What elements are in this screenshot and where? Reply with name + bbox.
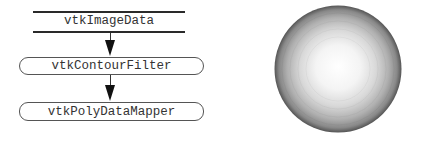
contour-filter-label: vtkContourFilter xyxy=(51,59,171,73)
poly-data-mapper-node: vtkPolyDataMapper xyxy=(19,102,204,121)
datastore-top-line xyxy=(33,11,185,13)
contour-filter-node: vtkContourFilter xyxy=(19,57,204,75)
arrow-head xyxy=(105,85,115,101)
image-data-label: vtkImageData xyxy=(33,14,185,28)
rendered-sphere-image xyxy=(274,5,402,133)
datastore-bottom-line xyxy=(33,31,185,33)
arrow-head xyxy=(105,40,115,56)
vtk-pipeline-figure: vtkImageData vtkContourFilter vtkPolyDat… xyxy=(0,0,424,148)
poly-data-mapper-label: vtkPolyDataMapper xyxy=(48,105,176,119)
